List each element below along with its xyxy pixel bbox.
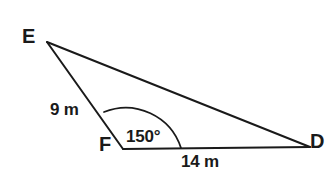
vertex-label-d: D	[310, 131, 324, 151]
geometry-figure: E F D 9 m 14 m 150°	[0, 0, 335, 177]
triangle-diagram-svg	[0, 0, 335, 177]
angle-measure-label-f: 150°	[126, 128, 160, 145]
side-length-label-fd: 14 m	[181, 153, 219, 170]
vertex-label-e: E	[22, 26, 35, 46]
side-fd-line	[123, 147, 310, 149]
side-length-label-ef: 9 m	[50, 101, 79, 118]
side-ed-line	[47, 42, 310, 147]
vertex-label-f: F	[99, 134, 111, 154]
